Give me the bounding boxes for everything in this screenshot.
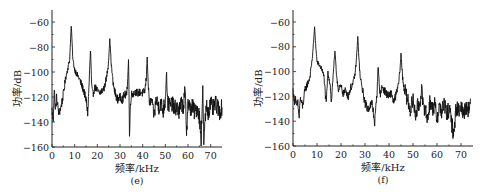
x-tick-label: 20: [335, 149, 347, 160]
y-tick-label: −140: [23, 117, 49, 128]
y-tick-label: −140: [264, 116, 290, 127]
x-tick-label: 50: [407, 149, 419, 160]
x-tick-label: 20: [91, 150, 103, 161]
y-axis-line: [293, 10, 473, 146]
x-axis-title: 频率/kHz: [361, 161, 404, 173]
x-tick-label: 30: [114, 150, 126, 161]
y-axis-line: [52, 10, 222, 147]
x-tick-label: 30: [359, 149, 371, 160]
x-tick-label: 50: [159, 150, 171, 161]
y-tick-label: −60: [270, 17, 290, 28]
series-line-spectrum-f: [293, 27, 470, 139]
x-tick-label: 60: [182, 150, 194, 161]
y-tick-label: −60: [29, 17, 49, 28]
x-tick-label: 0: [49, 150, 55, 161]
x-tick-label: 40: [383, 149, 395, 160]
series-line-spectrum-e: [52, 26, 222, 146]
x-axis-title: 频率/kHz: [115, 162, 158, 174]
panel-label: (e): [130, 175, 143, 186]
y-tick-label: −160: [23, 142, 49, 153]
y-tick-label: −100: [264, 66, 290, 77]
y-tick-label: −80: [270, 41, 290, 52]
x-tick-label: 70: [455, 149, 467, 160]
x-tick-label: 60: [431, 149, 443, 160]
y-axis-title: 功率/dB: [252, 69, 264, 106]
x-tick-label: 10: [69, 150, 81, 161]
panel-label: (f): [378, 174, 389, 185]
y-axis-title: 功率/dB: [11, 70, 23, 107]
trace-group: [52, 26, 222, 146]
y-tick-label: −120: [23, 92, 49, 103]
y-tick-label: −160: [264, 141, 290, 152]
panel-f: 010203040506070 −60−80−100−120−140−160 频…: [252, 10, 473, 185]
y-ticks: −60−80−100−120−140−160: [23, 17, 55, 153]
y-tick-label: −120: [264, 91, 290, 102]
chart-figure: 010203040506070 −60−80−100−120−140−160 频…: [0, 0, 482, 196]
x-tick-label: 40: [137, 150, 149, 161]
y-tick-label: −100: [23, 67, 49, 78]
x-tick-label: 70: [205, 150, 217, 161]
trace-group: [293, 27, 470, 139]
y-tick-label: −80: [29, 42, 49, 53]
panel-e: 010203040506070 −60−80−100−120−140−160 频…: [11, 10, 222, 186]
x-tick-label: 0: [290, 149, 296, 160]
y-ticks: −60−80−100−120−140−160: [264, 17, 296, 152]
x-tick-label: 10: [311, 149, 323, 160]
